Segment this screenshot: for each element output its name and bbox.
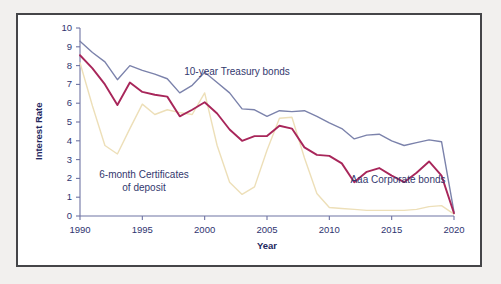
x-tick-label: 2020 [434, 225, 474, 235]
y-tick-label: 8 [44, 61, 72, 71]
y-tick-label: 0 [44, 211, 72, 221]
chart-frame: 012345678910 199019952000200520102015202… [16, 13, 482, 267]
x-axis-title: Year [247, 241, 287, 251]
x-tick-label: 2005 [247, 225, 287, 235]
x-tick-label: 2015 [372, 225, 412, 235]
x-tick-label: 2000 [185, 225, 225, 235]
x-tick-label: 2010 [309, 225, 349, 235]
y-tick-label: 4 [44, 136, 72, 146]
y-tick-label: 7 [44, 79, 72, 89]
y-tick-label: 3 [44, 155, 72, 165]
y-tick-label: 9 [44, 42, 72, 52]
series-annotation: of deposit [54, 182, 234, 195]
y-tick-label: 10 [44, 23, 72, 33]
series-annotation: Aaa Corporate bonds [308, 174, 488, 187]
y-tick-label: 6 [44, 98, 72, 108]
series-annotation: 10-year Treasury bonds [147, 66, 327, 79]
x-tick-label: 1990 [60, 225, 100, 235]
series-annotation: 6-month Certificates [54, 169, 234, 182]
y-axis-title: Interest Rate [34, 102, 44, 160]
y-tick-label: 5 [44, 117, 72, 127]
x-tick-marks [80, 216, 454, 220]
x-tick-label: 1995 [122, 225, 162, 235]
